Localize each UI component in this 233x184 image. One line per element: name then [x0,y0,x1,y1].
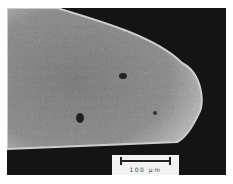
pit [76,113,84,123]
scale-bar: 100 μm [112,155,179,175]
pit [119,73,127,79]
specimen-tip [7,8,226,175]
sem-micrograph: 100 μm [7,8,226,175]
pit [153,111,157,115]
scale-bar-label: 100 μm [112,166,179,173]
scale-bar-line [120,160,171,162]
